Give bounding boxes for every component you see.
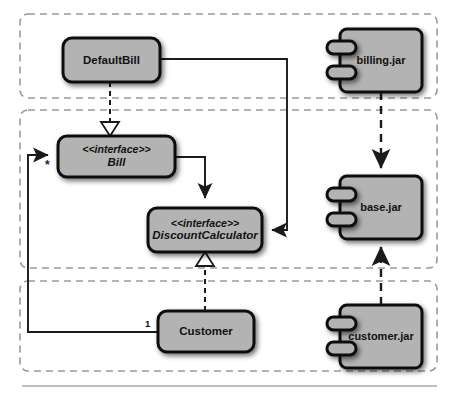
- connector-defaultbill-to-discountcalculator: [160, 59, 287, 230]
- component-base-jar[interactable]: [327, 176, 422, 239]
- component-customer-jar[interactable]: [327, 305, 422, 368]
- realization-triangle-bill: [101, 122, 119, 136]
- component-node-group: [327, 29, 422, 368]
- class-box-discount-calculator[interactable]: [148, 208, 262, 252]
- component-tab-lower-base-jar: [327, 213, 356, 226]
- class-box-bill[interactable]: [58, 136, 175, 177]
- component-body-base-jar: [340, 176, 422, 239]
- class-box-default-bill[interactable]: [63, 38, 160, 82]
- class-node-group: [58, 38, 262, 352]
- connector-bill-to-discountcalculator: [175, 157, 205, 198]
- component-tab-upper-billing-jar: [327, 41, 356, 54]
- component-body-billing-jar: [340, 29, 422, 92]
- component-tab-lower-billing-jar: [327, 66, 356, 79]
- component-billing-jar[interactable]: [327, 29, 422, 92]
- component-body-customer-jar: [340, 305, 422, 368]
- connector-customer-to-bill: [28, 155, 158, 332]
- uml-diagram-canvas: DiscountCalculator (solid, right-down-le…: [0, 0, 455, 396]
- realization-triangle-discountcalculator: [196, 252, 214, 266]
- class-box-customer[interactable]: [158, 311, 254, 352]
- component-tab-upper-customer-jar: [327, 317, 356, 330]
- component-tab-lower-customer-jar: [327, 342, 356, 355]
- component-tab-upper-base-jar: [327, 188, 356, 201]
- diagram-svg-layer: DiscountCalculator (solid, right-down-le…: [0, 0, 455, 396]
